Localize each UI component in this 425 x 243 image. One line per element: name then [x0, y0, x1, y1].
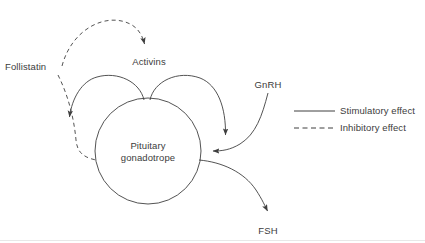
- node-label-fsh: FSH: [258, 225, 277, 236]
- legend-label-inhibitory: Inhibitory effect: [340, 122, 406, 133]
- node-label-follistatin: Follistatin: [5, 61, 46, 72]
- diagram-figure: Follistatin Activins GnRH FSH Pituitary …: [0, 0, 425, 243]
- gonadotrope-label-line1: Pituitary: [121, 140, 175, 152]
- arrow-gnrh-stimulates-gonadotrope: [213, 93, 268, 151]
- node-label-gonadotrope: Pituitary gonadotrope: [121, 140, 175, 163]
- arrow-follistatin-inhibits-gonadotrope: [58, 75, 96, 160]
- arrow-gonadotrope-secretes-fsh: [199, 160, 268, 211]
- arrow-activins-stimulate-gonadotrope-right: [150, 75, 226, 135]
- page-bottom-rule: [0, 240, 425, 241]
- node-label-gnrh: GnRH: [255, 79, 282, 90]
- legend-label-stimulatory: Stimulatory effect: [340, 105, 415, 116]
- arrow-activins-stimulate-gonadotrope-left: [70, 75, 145, 117]
- node-label-activins: Activins: [132, 56, 166, 67]
- gonadotrope-label-line2: gonadotrope: [121, 152, 175, 164]
